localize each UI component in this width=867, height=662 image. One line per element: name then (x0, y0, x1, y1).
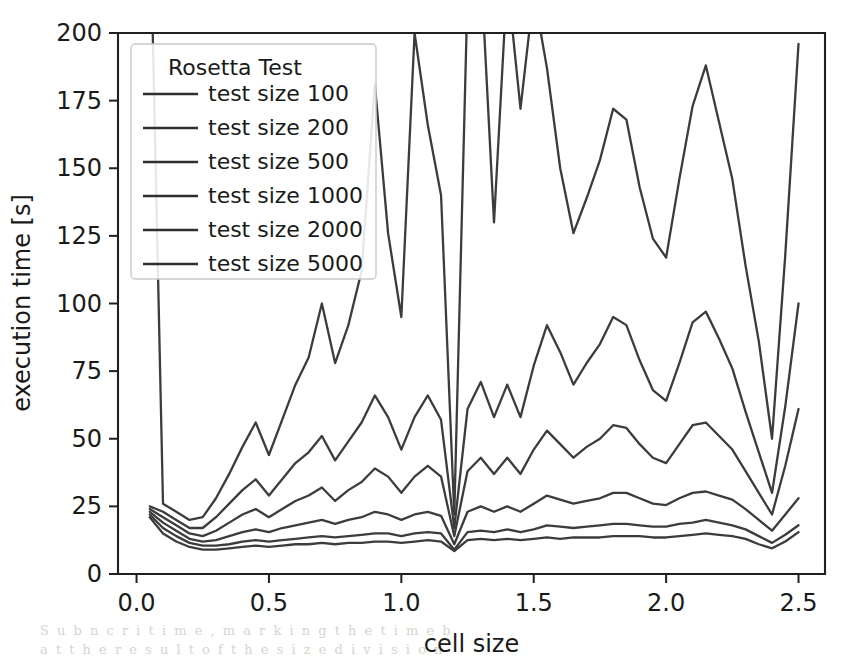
legend-label: test size 500 (208, 149, 349, 174)
figure-background (0, 0, 867, 662)
legend-title: Rosetta Test (168, 55, 302, 80)
y-tick-label: 75 (71, 357, 102, 385)
x-tick-label: 1.5 (515, 589, 553, 617)
y-tick-label: 200 (56, 19, 102, 47)
legend-label: test size 100 (208, 81, 349, 106)
y-tick-label: 150 (56, 154, 102, 182)
y-tick-label: 25 (71, 492, 102, 520)
y-tick-label: 125 (56, 222, 102, 250)
svg-text:S u b n c r i t i m: S u b n c r i t i m e , m a r k i n g t … (40, 623, 453, 638)
x-tick-label: 0.5 (250, 589, 288, 617)
chart-figure: S u b n c r i t i m e , m a r k i n g t … (0, 0, 867, 662)
y-tick-label: 175 (56, 87, 102, 115)
svg-text:a t t h e r e s u: a t t h e r e s u l t o f t h e s i z e … (40, 642, 444, 657)
x-tick-label: 2.0 (647, 589, 685, 617)
legend-label: test size 2000 (208, 217, 363, 242)
y-tick-label: 100 (56, 290, 102, 318)
legend-label: test size 200 (208, 115, 349, 140)
legend-label: test size 5000 (208, 251, 363, 276)
y-tick-label: 0 (87, 560, 102, 588)
x-tick-label: 1.0 (382, 589, 420, 617)
x-axis-title: cell size (424, 630, 519, 658)
x-tick-label: 2.5 (779, 589, 817, 617)
legend-label: test size 1000 (208, 183, 363, 208)
x-tick-label: 0.0 (117, 589, 155, 617)
y-tick-label: 50 (71, 425, 102, 453)
y-axis-title: execution time [s] (8, 194, 36, 412)
legend[interactable]: Rosetta Test test size 100test size 200t… (131, 44, 376, 279)
